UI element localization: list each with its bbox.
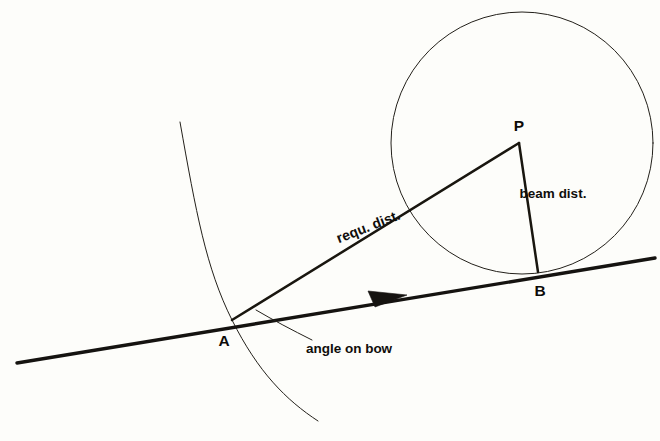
navigation-geometry-diagram: P B A requ. dist. beam dist. angle on bo… — [0, 0, 660, 441]
point-label-p: P — [514, 117, 524, 134]
target-circle — [391, 12, 653, 274]
point-label-b: B — [534, 282, 545, 299]
beam-dist-label: beam dist. — [520, 186, 587, 201]
point-label-a: A — [218, 332, 229, 349]
angle-on-bow-label: angle on bow — [306, 341, 393, 356]
course-arc — [180, 122, 318, 421]
diagram-canvas: P B A requ. dist. beam dist. angle on bo… — [0, 0, 660, 441]
requ-dist-label: requ. dist. — [334, 207, 402, 246]
beam-dist-line — [519, 143, 538, 272]
